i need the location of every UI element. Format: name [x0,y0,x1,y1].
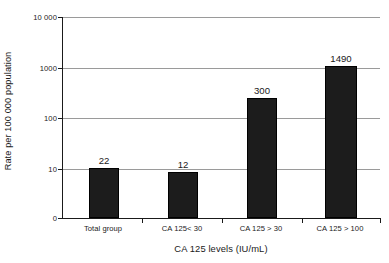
x-category-label-total-group: Total group [84,224,122,233]
y-tick-mark-0 [58,218,63,219]
y-tick-label-0: 0 [53,214,57,223]
y-tick-mark-100 [58,118,63,119]
bar-ca125-gt-100[interactable]: 1490 [325,66,357,218]
x-tick-mark-1 [142,218,143,223]
y-tick-mark-1000 [58,68,63,69]
x-category-label-ca125-lt-30: CA 125< 30 [162,224,202,233]
y-tick-mark-10000 [58,17,63,18]
bar-ca125-lt-30[interactable]: 12 [168,172,198,218]
bar-ca125-gt-30[interactable]: 300 [247,98,277,218]
gridline-10000 [63,17,380,18]
chart-figure: Rate per 100 000 population 10 000 1000 … [0,0,389,263]
bar-value-ca125-gt-30: 300 [254,85,270,96]
bar-value-ca125-gt-100: 1490 [330,53,351,64]
y-tick-label-100: 100 [44,114,57,123]
bar-value-total-group: 22 [99,155,110,166]
y-tick-label-1000: 1000 [40,63,57,72]
x-category-label-ca125-gt-100: CA 125 > 100 [317,224,364,233]
x-axis-title: CA 125 levels (IU/mL) [62,243,380,254]
y-tick-mark-10 [58,169,63,170]
x-tick-mark-2 [222,218,223,223]
x-category-label-ca125-gt-30: CA 125 > 30 [240,224,283,233]
x-tick-mark-3 [302,218,303,223]
y-axis-title: Rate per 100 000 population [0,0,16,222]
bar-total-group[interactable]: 22 [89,168,119,218]
plot-area: 10 000 1000 100 10 0 22 12 300 1490 [62,17,380,219]
x-tick-mark-4 [380,218,381,223]
y-tick-label-10: 10 [48,164,57,173]
y-axis-title-text: Rate per 100 000 population [3,52,13,171]
bar-value-ca125-lt-30: 12 [178,159,189,170]
y-tick-label-10000: 10 000 [33,13,57,22]
